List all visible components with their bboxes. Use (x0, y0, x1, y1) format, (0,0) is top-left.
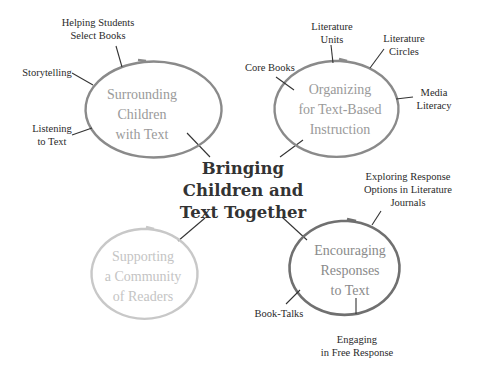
spoke-line: Core Books (245, 61, 295, 74)
hub-line: Encouraging (314, 241, 386, 261)
spoke-line: Journals (364, 196, 452, 209)
central-topic-line: Children and (180, 180, 306, 202)
spoke-literature-circles: Literature Circles (383, 32, 424, 58)
hub-line: Children (107, 105, 177, 125)
hub-line: Organizing (298, 80, 381, 100)
spoke-core-books: Core Books (245, 61, 295, 74)
hub-line: a Community (105, 267, 182, 287)
spoke-line: Media (417, 86, 452, 99)
spoke-line: Select Books (62, 29, 135, 42)
hub-line: Instruction (298, 120, 381, 140)
spoke-line: Book-Talks (255, 307, 304, 320)
hub-line: of Readers (105, 287, 182, 307)
spoke-storytelling: Storytelling (22, 66, 72, 79)
spoke-line: Literature (311, 20, 352, 33)
spoke-helping-students: Helping Students Select Books (62, 16, 135, 42)
central-topic-line: Bringing (180, 158, 306, 180)
spoke-line: Engaging (321, 333, 393, 346)
spoke-line: to Text (32, 135, 72, 148)
hub-supporting: Supporting a Community of Readers (105, 247, 182, 307)
hub-line: with Text (107, 125, 177, 145)
spoke-literature-units: Literature Units (311, 20, 352, 46)
spoke-line: Listening (32, 122, 72, 135)
central-topic-line: Text Together (180, 202, 306, 224)
spoke-line: Circles (383, 45, 424, 58)
spoke-exploring-response: Exploring Response Options in Literature… (364, 170, 452, 209)
spoke-line: Units (311, 33, 352, 46)
central-topic: Bringing Children and Text Together (180, 158, 306, 224)
spoke-line: Literacy (417, 99, 452, 112)
hub-line: for Text-Based (298, 100, 381, 120)
spoke-media-literacy: Media Literacy (417, 86, 452, 112)
spoke-line: Exploring Response (364, 170, 452, 183)
hub-line: Surrounding (107, 85, 177, 105)
hub-line: Responses (314, 261, 386, 281)
spoke-book-talks: Book-Talks (255, 307, 304, 320)
spoke-line: Options in Literature (364, 183, 452, 196)
spoke-line: Literature (383, 32, 424, 45)
hub-line: Supporting (105, 247, 182, 267)
spoke-line: Helping Students (62, 16, 135, 29)
hub-encouraging: Encouraging Responses to Text (314, 241, 386, 301)
spoke-line: in Free Response (321, 346, 393, 359)
spoke-line: Storytelling (22, 66, 72, 79)
hub-surrounding: Surrounding Children with Text (107, 85, 177, 145)
hub-line: to Text (314, 281, 386, 301)
hub-organizing: Organizing for Text-Based Instruction (298, 80, 381, 140)
spoke-listening: Listening to Text (32, 122, 72, 148)
spoke-engaging-free-response: Engaging in Free Response (321, 333, 393, 359)
